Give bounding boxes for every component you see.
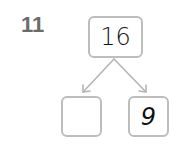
whole-box: 16 bbox=[88, 16, 143, 58]
part-box-right: 9 bbox=[128, 96, 169, 137]
part-value-right: 9 bbox=[141, 103, 156, 131]
whole-value: 16 bbox=[100, 23, 131, 51]
arrow-left-icon bbox=[84, 59, 114, 91]
part-box-left[interactable] bbox=[61, 96, 102, 137]
arrow-right-icon bbox=[114, 59, 145, 91]
